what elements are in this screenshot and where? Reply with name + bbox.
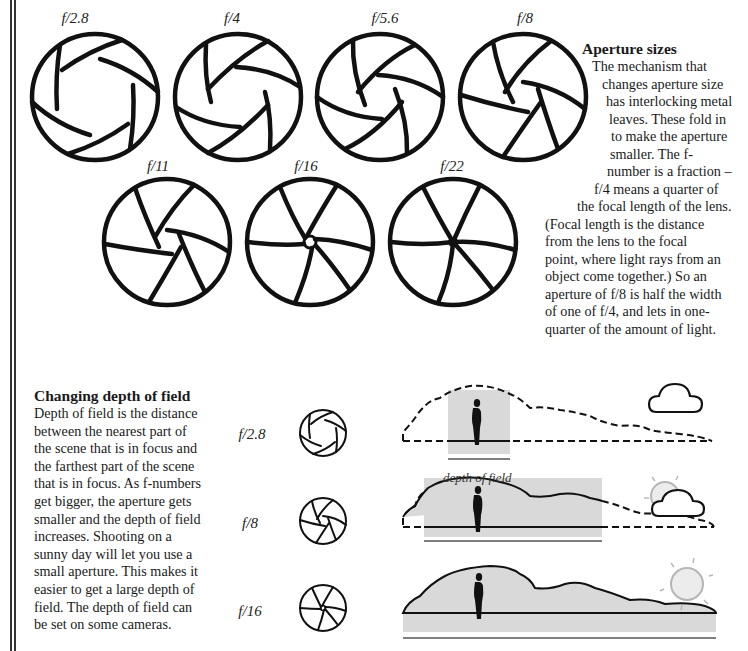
aperture-f11-icon xyxy=(104,179,230,305)
aperture-f4-icon xyxy=(175,34,301,160)
aperture-text-line: leaves. These fold in xyxy=(609,111,726,129)
cloud-icon xyxy=(649,384,702,412)
small-aperture-f8-icon xyxy=(300,498,346,544)
aperture-f8-icon xyxy=(460,34,586,160)
aperture-text-line: the focal length of the lens. xyxy=(577,198,731,216)
aperture-text-line: point, where light rays from an xyxy=(545,251,721,269)
aperture-text-line: number is a fraction – xyxy=(607,163,732,181)
aperture-text-line: from the lens to the focal xyxy=(545,233,687,251)
depth-of-field-caption: depth of field xyxy=(443,470,512,486)
aperture-text-line: (Focal length is the distance xyxy=(545,216,704,234)
depth-of-field-illustrations xyxy=(0,370,748,651)
scene-f16 xyxy=(403,558,716,638)
sun-behind-cloud-icon xyxy=(644,476,704,516)
small-aperture-f16-icon xyxy=(300,585,346,631)
aperture-text-line: object come together.) So an xyxy=(545,268,707,286)
aperture-text-line: to make the aperture xyxy=(611,128,727,146)
aperture-sizes-panel: Aperture sizes xyxy=(582,40,677,58)
aperture-text-line: quarter of the amount of light. xyxy=(545,321,716,339)
aperture-text-line: The mechanism that xyxy=(592,58,707,76)
focus-zone xyxy=(403,613,716,632)
scene-f2-8 xyxy=(403,384,712,459)
aperture-text-line: aperture of f/8 is half the width xyxy=(545,286,722,304)
aperture-f22-icon xyxy=(390,179,516,305)
aperture-text-line: smaller. The f- xyxy=(610,146,693,164)
aperture-text-line: changes aperture size xyxy=(602,76,723,94)
aperture-f16-icon xyxy=(247,179,373,305)
aperture-text-line: of one of f/4, and lets in one- xyxy=(545,303,710,321)
aperture-sizes-heading: Aperture sizes xyxy=(582,40,677,58)
sun-icon xyxy=(660,558,713,610)
aperture-text-line: f/4 means a quarter of xyxy=(594,181,718,199)
small-aperture-f2-8-icon xyxy=(300,410,346,456)
aperture-f2-8-icon xyxy=(32,34,158,160)
aperture-text-line: has interlocking metal xyxy=(606,93,732,111)
aperture-f5-6-icon xyxy=(317,34,443,160)
